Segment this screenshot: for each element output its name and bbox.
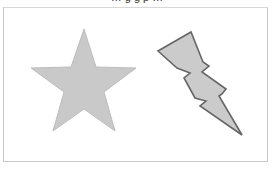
star-shape[interactable]	[31, 29, 136, 131]
lightning-bolt-shape[interactable]	[158, 32, 242, 135]
canvas	[0, 0, 274, 174]
